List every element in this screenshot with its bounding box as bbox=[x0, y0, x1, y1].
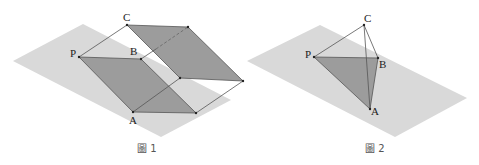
label-C-fig1: C bbox=[123, 11, 130, 23]
label-A-fig2: A bbox=[371, 105, 379, 117]
diagram-canvas: P B C A 圖 1 P B C A 圖 2 bbox=[0, 0, 479, 165]
label-P-fig2: P bbox=[305, 48, 311, 60]
label-B-fig2: B bbox=[379, 58, 386, 70]
caption-fig2: 圖 2 bbox=[365, 143, 385, 154]
figure-1: P B C A 圖 1 bbox=[13, 11, 244, 154]
label-C-fig2: C bbox=[364, 12, 371, 24]
label-A-fig1: A bbox=[129, 114, 137, 126]
figure-2: P B C A 圖 2 bbox=[247, 12, 467, 154]
caption-fig1: 圖 1 bbox=[137, 143, 157, 154]
label-B-fig1: B bbox=[130, 45, 137, 57]
label-P-fig1: P bbox=[70, 47, 76, 59]
